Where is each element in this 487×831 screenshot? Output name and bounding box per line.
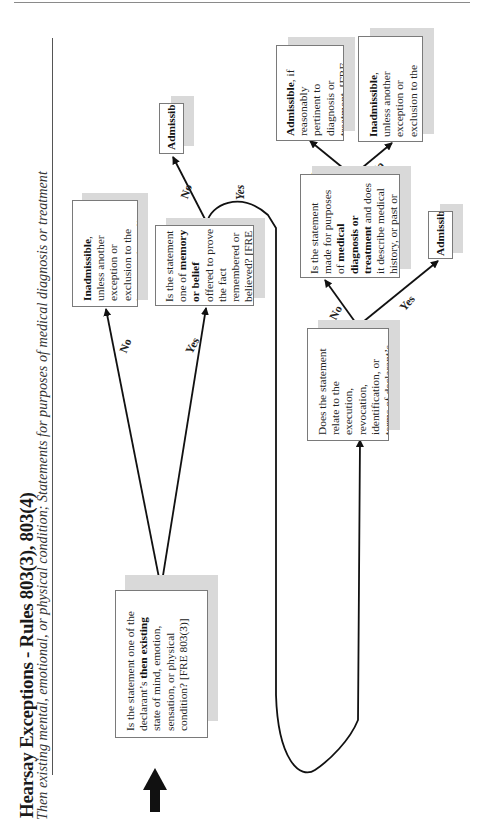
node-inadmissible-2: Inadmissible, unless another exception o…: [358, 36, 423, 142]
keyword-admissible: Admissible: [284, 82, 296, 136]
node-then-existing-question: Is the statement one of the declarant’s …: [115, 590, 208, 738]
keyword-inadmissible: Inadmissible: [81, 239, 93, 301]
node-admissible-1: Admissible.: [159, 103, 184, 154]
node-admissible-pertinent: Admissible, if reasonably pertinent to d…: [276, 45, 344, 141]
keyword-then-existing: then existing: [137, 617, 149, 679]
edge-label-memory-yes: Yes: [234, 185, 246, 200]
node-will-question: Does the statement relate to the executi…: [307, 328, 389, 441]
node-inadmissible-1: Inadmissible, unless another exception o…: [72, 200, 138, 307]
keyword-inadmissible: Inadmissible: [367, 75, 379, 137]
entry-arrow-icon: [143, 768, 167, 812]
node-admissible-2: Admissible.: [428, 211, 453, 259]
node-medical-question: Is the statement made for purposes of me…: [300, 174, 400, 278]
node-memory-belief-question: Is the statement one of memory or belief…: [155, 225, 254, 306]
